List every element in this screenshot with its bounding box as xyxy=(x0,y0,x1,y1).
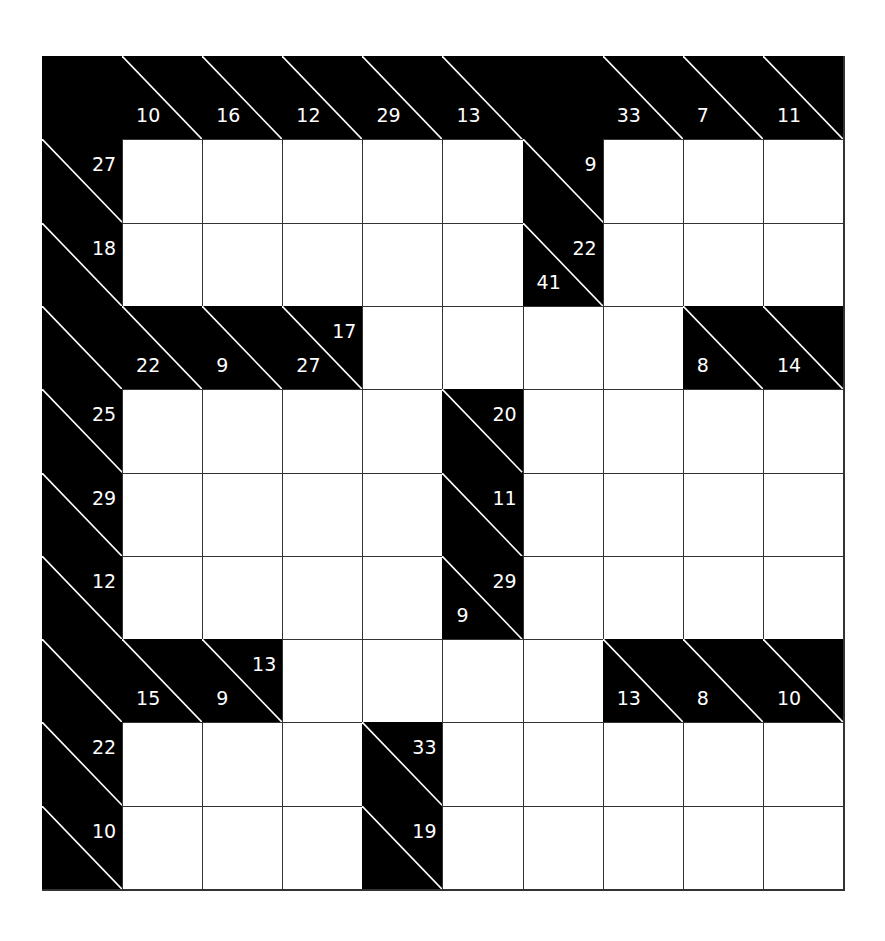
diagonal-divider xyxy=(282,56,362,139)
clue-cell: 12 xyxy=(282,56,362,139)
entry-cell[interactable] xyxy=(763,556,843,639)
entry-cell[interactable] xyxy=(282,639,362,722)
entry-cell[interactable] xyxy=(202,223,282,306)
entry-cell[interactable] xyxy=(362,223,442,306)
entry-cell[interactable] xyxy=(683,722,763,805)
entry-cell[interactable] xyxy=(442,806,522,889)
entry-cell[interactable] xyxy=(442,139,522,222)
entry-cell[interactable] xyxy=(603,306,683,389)
entry-cell[interactable] xyxy=(122,473,202,556)
across-clue: 25 xyxy=(92,405,116,424)
entry-cell[interactable] xyxy=(523,639,603,722)
entry-cell[interactable] xyxy=(763,223,843,306)
entry-cell[interactable] xyxy=(523,473,603,556)
entry-cell[interactable] xyxy=(442,722,522,805)
down-clue: 14 xyxy=(777,356,801,375)
entry-cell[interactable] xyxy=(683,806,763,889)
diagonal-divider xyxy=(683,306,763,389)
entry-cell[interactable] xyxy=(603,389,683,472)
entry-cell[interactable] xyxy=(683,556,763,639)
entry-cell[interactable] xyxy=(763,473,843,556)
diagonal-divider xyxy=(442,56,522,139)
down-clue: 10 xyxy=(136,106,160,125)
across-clue: 29 xyxy=(92,489,116,508)
across-clue: 22 xyxy=(92,738,116,757)
entry-cell[interactable] xyxy=(763,389,843,472)
entry-cell[interactable] xyxy=(122,556,202,639)
entry-cell[interactable] xyxy=(603,556,683,639)
entry-cell[interactable] xyxy=(282,223,362,306)
diagonal-divider xyxy=(763,306,843,389)
entry-cell[interactable] xyxy=(442,306,522,389)
diagonal-divider xyxy=(523,139,603,222)
clue-cell xyxy=(42,306,122,389)
entry-cell[interactable] xyxy=(362,306,442,389)
entry-cell[interactable] xyxy=(282,389,362,472)
entry-cell[interactable] xyxy=(763,806,843,889)
entry-cell[interactable] xyxy=(523,306,603,389)
diagonal-divider xyxy=(603,56,683,139)
entry-cell[interactable] xyxy=(603,223,683,306)
entry-cell[interactable] xyxy=(282,556,362,639)
entry-cell[interactable] xyxy=(442,223,522,306)
entry-cell[interactable] xyxy=(603,473,683,556)
entry-cell[interactable] xyxy=(523,806,603,889)
entry-cell[interactable] xyxy=(202,473,282,556)
diagonal-divider xyxy=(763,639,843,722)
diagonal-divider xyxy=(763,56,843,139)
entry-cell[interactable] xyxy=(683,473,763,556)
entry-cell[interactable] xyxy=(523,556,603,639)
diagonal-divider xyxy=(683,639,763,722)
entry-cell[interactable] xyxy=(282,473,362,556)
down-clue: 8 xyxy=(697,689,709,708)
across-clue: 12 xyxy=(92,572,116,591)
entry-cell[interactable] xyxy=(603,806,683,889)
entry-cell[interactable] xyxy=(122,722,202,805)
entry-cell[interactable] xyxy=(282,806,362,889)
entry-cell[interactable] xyxy=(362,556,442,639)
entry-cell[interactable] xyxy=(122,223,202,306)
diagonal-divider xyxy=(442,556,522,639)
down-clue: 29 xyxy=(376,106,400,125)
entry-cell[interactable] xyxy=(603,722,683,805)
entry-cell[interactable] xyxy=(282,722,362,805)
down-clue: 8 xyxy=(697,356,709,375)
entry-cell[interactable] xyxy=(202,389,282,472)
clue-cell xyxy=(42,56,122,139)
entry-cell[interactable] xyxy=(362,389,442,472)
entry-cell[interactable] xyxy=(683,223,763,306)
entry-cell[interactable] xyxy=(122,806,202,889)
down-clue: 27 xyxy=(296,356,320,375)
diagonal-divider xyxy=(202,56,282,139)
entry-cell[interactable] xyxy=(683,139,763,222)
entry-cell[interactable] xyxy=(122,139,202,222)
entry-cell[interactable] xyxy=(442,639,522,722)
down-clue: 10 xyxy=(777,689,801,708)
entry-cell[interactable] xyxy=(683,389,763,472)
diagonal-divider xyxy=(42,639,122,722)
diagonal-divider xyxy=(202,639,282,722)
entry-cell[interactable] xyxy=(362,139,442,222)
diagonal-divider xyxy=(202,306,282,389)
entry-cell[interactable] xyxy=(202,139,282,222)
clue-cell: 7 xyxy=(683,56,763,139)
clue-cell: 12 xyxy=(42,556,122,639)
clue-cell: 10 xyxy=(122,56,202,139)
entry-cell[interactable] xyxy=(763,139,843,222)
diagonal-divider xyxy=(122,639,202,722)
entry-cell[interactable] xyxy=(603,139,683,222)
entry-cell[interactable] xyxy=(362,639,442,722)
entry-cell[interactable] xyxy=(122,389,202,472)
entry-cell[interactable] xyxy=(282,139,362,222)
diagonal-divider xyxy=(362,806,442,889)
entry-cell[interactable] xyxy=(362,473,442,556)
entry-cell[interactable] xyxy=(523,722,603,805)
clue-cell: 14 xyxy=(763,306,843,389)
entry-cell[interactable] xyxy=(202,556,282,639)
entry-cell[interactable] xyxy=(523,389,603,472)
entry-cell[interactable] xyxy=(202,806,282,889)
clue-cell: 22 xyxy=(122,306,202,389)
clue-cell: 13 xyxy=(603,639,683,722)
entry-cell[interactable] xyxy=(763,722,843,805)
entry-cell[interactable] xyxy=(202,722,282,805)
